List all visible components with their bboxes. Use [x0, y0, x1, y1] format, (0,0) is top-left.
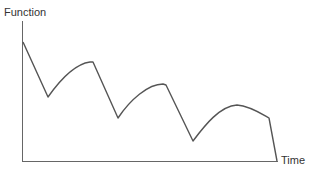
function-curve [23, 42, 277, 161]
function-time-diagram [0, 0, 315, 176]
